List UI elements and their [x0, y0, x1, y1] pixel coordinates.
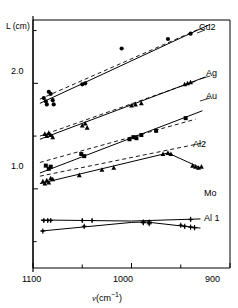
x-axis-paren: ): [119, 293, 122, 303]
x-axis-title: ν(cm−1): [92, 291, 122, 303]
x-axis-unit: (cm: [96, 293, 111, 303]
series-label-mo: Mo: [204, 188, 217, 198]
series-label-ag: Ag: [206, 68, 217, 78]
y-tick-label-1: 1.0: [11, 161, 24, 171]
series-label-al2: Al2: [193, 139, 206, 149]
fit-line-ag: [40, 77, 205, 139]
fit-line-al2: [40, 153, 201, 184]
plot-svg: [0, 0, 238, 308]
fit-line-cu2: [40, 24, 210, 103]
series-label-al1: Al 1: [204, 213, 220, 223]
x-tick-label-1100: 1100: [22, 274, 41, 284]
figure-container: L (cm) 2.0 1.0 1100 1000 900 ν(cm−1) Cu2…: [0, 0, 238, 308]
data-points-al2: [40, 150, 203, 185]
series-label-au: Au: [206, 91, 217, 101]
y-axis-label: L (cm): [6, 21, 30, 31]
dashed-reference-line-al2: [40, 142, 205, 176]
series-label-cu2: Cu2: [199, 22, 216, 32]
x-axis-exponent: −1: [111, 291, 119, 298]
x-tick-label-1000: 1000: [113, 274, 133, 284]
y-tick-label-2: 2.0: [11, 66, 24, 76]
fit-line-mo: [41, 219, 201, 221]
dashed-reference-line-cu2: [40, 28, 201, 99]
data-points-al1: [40, 219, 197, 233]
fit-line-al1: [41, 222, 201, 231]
x-tick-label-900: 900: [205, 274, 220, 284]
